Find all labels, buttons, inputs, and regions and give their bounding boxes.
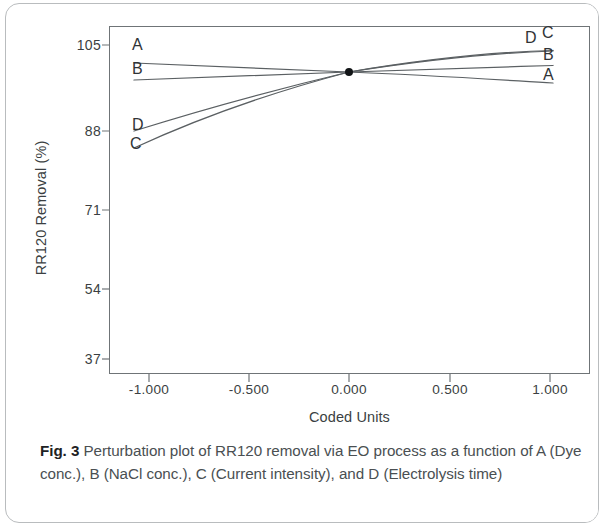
- curve-series-d: [134, 51, 553, 132]
- figure-caption-text: Perturbation plot of RR120 removal via E…: [40, 442, 581, 482]
- plot-area: RR120 Removal (%) Coded Units 105 88 71 …: [6, 4, 599, 434]
- figure-caption: Fig. 3 Perturbation plot of RR120 remova…: [40, 440, 592, 485]
- curve-label-left-c: C: [130, 136, 142, 152]
- figure-card: RR120 Removal (%) Coded Units 105 88 71 …: [5, 3, 599, 523]
- x-axis-ticks: [149, 374, 550, 382]
- chart-canvas: [6, 4, 599, 434]
- curve-label-left-d: D: [132, 117, 144, 133]
- figure-caption-label: Fig. 3: [40, 442, 79, 459]
- card-edge-mask-top: [66, 3, 599, 7]
- curve-label-right-b: B: [543, 47, 554, 63]
- center-point-marker: [345, 68, 353, 76]
- card-edge-mask-right: [595, 4, 599, 523]
- card-edge-mask-bottom: [46, 518, 599, 523]
- curve-label-right-d: D: [525, 30, 537, 46]
- y-axis-ticks: [102, 45, 109, 359]
- curve-label-left-b: B: [132, 61, 143, 77]
- curve-label-right-c: C: [542, 25, 554, 41]
- curve-label-left-a: A: [132, 37, 143, 53]
- curve-label-right-a: A: [543, 67, 554, 83]
